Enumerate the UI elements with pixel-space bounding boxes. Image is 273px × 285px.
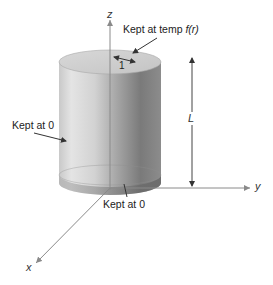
radius-label: 1 bbox=[119, 61, 125, 71]
diagram-canvas: z y x Kept at temp f(r) 1 Kept at 0 L Ke… bbox=[0, 0, 273, 285]
bottom-boundary-label: Kept at 0 bbox=[103, 199, 145, 210]
side-boundary-label: Kept at 0 bbox=[12, 120, 54, 131]
cylinder-diagram bbox=[0, 0, 273, 285]
y-axis-label: y bbox=[255, 181, 261, 192]
x-axis bbox=[36, 188, 110, 263]
x-axis-label: x bbox=[26, 262, 32, 273]
top-boundary-label: Kept at temp f(r) bbox=[123, 24, 199, 35]
z-axis-label: z bbox=[107, 9, 113, 20]
top-pointer-arrow bbox=[133, 38, 157, 53]
height-label: L bbox=[188, 113, 194, 124]
